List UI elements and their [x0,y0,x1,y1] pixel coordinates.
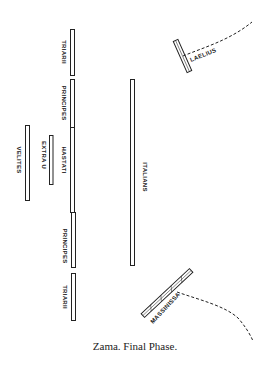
unit-extra-u: EXTRA U [41,136,53,185]
unit-velites: VELITES [16,126,30,201]
label-velites: VELITES [16,146,22,173]
label-hastati: HASTATI [61,146,67,173]
label-laelius: LAELIUS [189,47,217,63]
battle-diagram: TRIARII PRINCIPES HASTATI PRINCIPES TRIA… [0,0,270,369]
unit-italians: ITALIANS [131,80,149,266]
label-principes-top: PRINCIPES [61,85,67,120]
unit-laelius: LAELIUS [173,22,252,73]
label-italians: ITALIANS [142,162,148,192]
label-principes-bottom: PRINCIPES [62,228,68,263]
unit-triarii-bottom: TRIARII [62,274,76,321]
unit-hastati: HASTATI [61,128,75,213]
label-triarii-top: TRIARII [61,40,67,64]
unit-massinissa: MASSINISSA [141,269,253,341]
laelius-route [183,22,252,56]
figure-caption: Zama. Final Phase. [0,340,270,352]
label-extra-u: EXTRA U [41,141,47,169]
massinissa-route [177,292,253,341]
label-triarii-bottom: TRIARII [62,285,68,309]
unit-principes-top: PRINCIPES [61,80,75,128]
unit-triarii-top: TRIARII [61,30,75,76]
unit-principes-bottom: PRINCIPES [62,213,76,268]
